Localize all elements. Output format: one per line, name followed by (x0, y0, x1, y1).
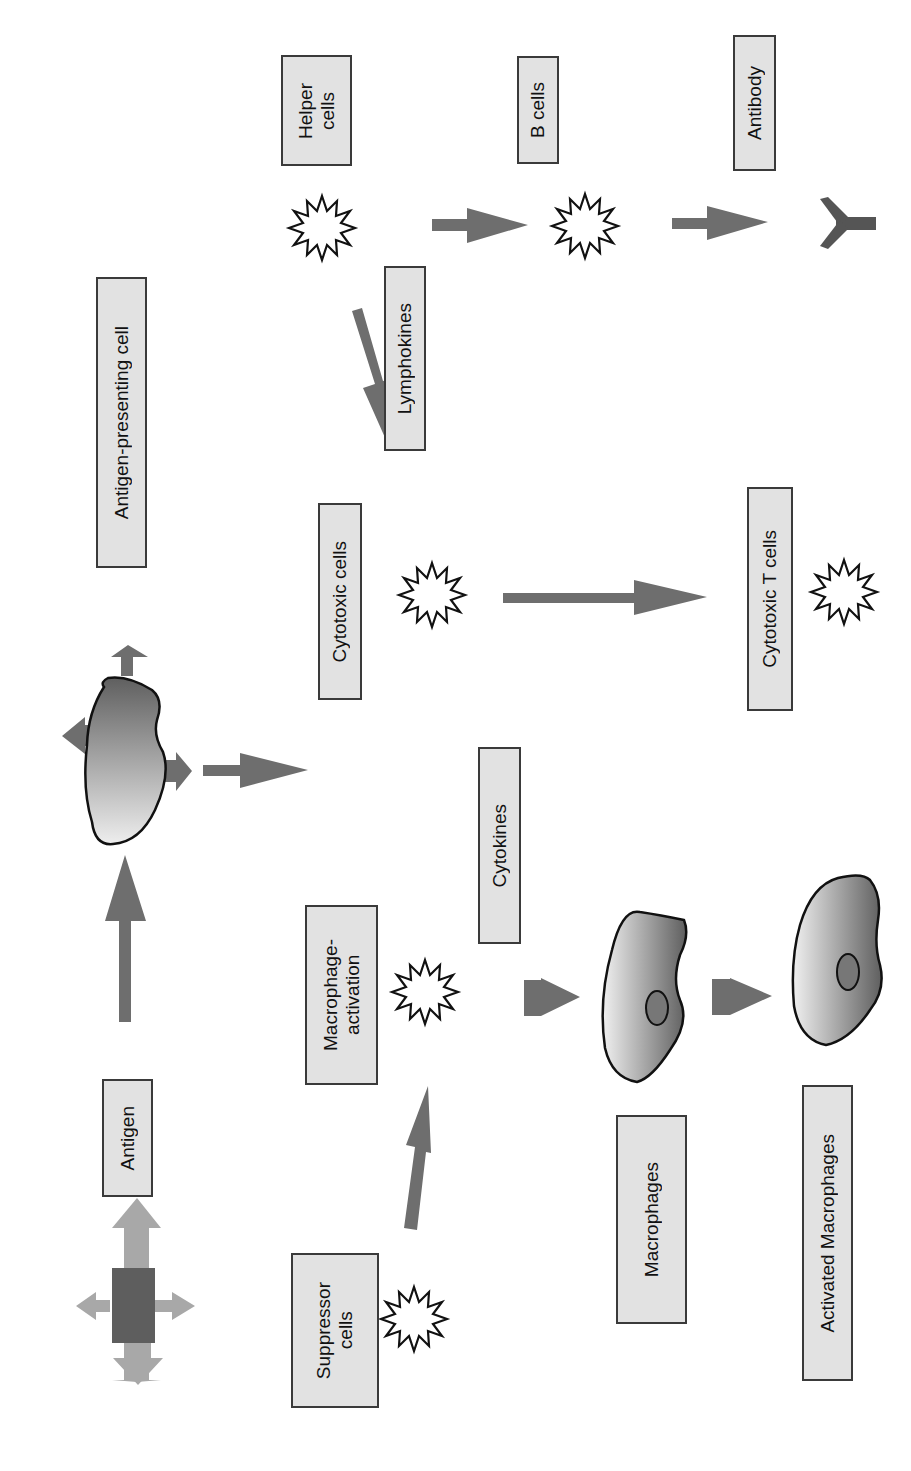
label-antigen: Antigen (102, 1079, 153, 1197)
label-text: Antigen (117, 1106, 139, 1170)
macrophage-cell-icon (603, 912, 687, 1082)
label-antigen-presenting-cell: Antigen-presenting cell (96, 277, 147, 568)
arrow-macact-to-macrophages (524, 978, 580, 1016)
label-text: Suppressor cells (313, 1282, 357, 1379)
label-text: Antigen-presenting cell (111, 326, 133, 519)
activated-macrophage-cell-icon (793, 875, 882, 1045)
apc-arrow-right (163, 752, 192, 791)
arrow-helper-to-bcells (432, 208, 528, 243)
helper-cell-starburst-icon (289, 196, 355, 260)
arrow-suppressor-to-macact (404, 1086, 431, 1230)
label-text: Macrophage- activation (320, 939, 364, 1051)
label-text: Macrophages (641, 1162, 663, 1277)
suppressor-starburst-icon (381, 1287, 447, 1351)
label-lymphokines: Lymphokines (384, 266, 426, 451)
label-text: Cytotoxic T cells (759, 530, 781, 668)
label-text: B cells (527, 82, 549, 138)
label-cytotoxic-t-cells: Cytotoxic T cells (747, 487, 793, 711)
label-b-cells: B cells (517, 56, 559, 164)
label-cytokines: Cytokines (478, 747, 521, 944)
macrophage-activation-starburst-icon (392, 960, 458, 1024)
label-text: Activated Macrophages (817, 1134, 839, 1333)
label-suppressor-cells: Suppressor cells (291, 1253, 379, 1408)
label-text: Cytotoxic cells (329, 541, 351, 662)
antibody-icon (820, 197, 876, 249)
bcell-starburst-icon (552, 194, 618, 258)
label-text: Helper cells (295, 83, 339, 139)
antigen-presenting-cell-shape (85, 678, 165, 845)
label-activated-macrophages: Activated Macrophages (802, 1085, 853, 1381)
arrow-apc-to-cytotoxic (203, 753, 308, 788)
label-text: Lymphokines (394, 303, 416, 414)
cytotoxic-t-cell-starburst-icon (811, 560, 877, 624)
arrow-macrophages-to-activated (712, 978, 772, 1015)
cytotoxic-starburst-icon (399, 563, 465, 627)
apc-arrow-up (111, 645, 148, 676)
label-macrophage-activation: Macrophage- activation (305, 905, 378, 1085)
antigen-cross-icon (76, 1198, 195, 1385)
label-cytotoxic-cells: Cytotoxic cells (318, 503, 362, 700)
label-helper-cells: Helper cells (281, 55, 352, 166)
arrow-cytotoxic-to-ctl (503, 580, 707, 615)
diagram-canvas (0, 0, 911, 1471)
label-text: Antibody (744, 66, 766, 140)
arrow-antigen-to-apc (105, 855, 146, 1022)
label-antibody: Antibody (733, 35, 776, 171)
arrow-bcells-to-antibody (672, 206, 768, 240)
label-text: Cytokines (489, 804, 511, 887)
label-macrophages: Macrophages (616, 1115, 687, 1324)
